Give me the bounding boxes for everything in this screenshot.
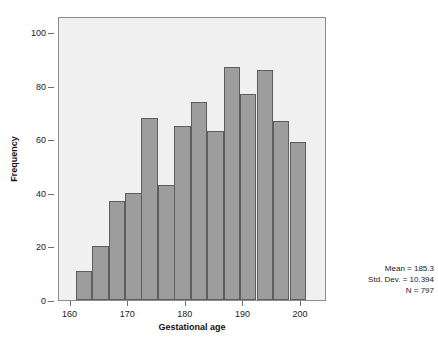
y-tick-mark [48,194,54,195]
histogram-bar [224,67,240,300]
x-tick-mark [242,301,243,306]
y-tick-mark [48,301,54,302]
y-tick-label: 0 [41,296,46,306]
histogram-bar [141,118,157,300]
y-tick-mark [48,140,54,141]
x-axis: 160170180190200 [58,301,326,341]
histogram-bar [92,246,108,300]
y-tick-label: 60 [36,135,46,145]
x-tick-label: 190 [235,309,250,319]
y-tick-label: 20 [36,242,46,252]
y-tick-mark [48,87,54,88]
histogram-bar [109,201,125,300]
histogram-bar [207,131,223,300]
histogram-bar [290,142,306,300]
histogram-bar [174,126,190,300]
y-tick-label: 100 [31,28,46,38]
x-tick-label: 170 [120,309,135,319]
histogram-bar [273,121,289,301]
x-axis-title: Gestational age [58,322,326,332]
histogram-bar [191,102,207,300]
y-tick-label: 40 [36,189,46,199]
histogram-bar [240,94,256,300]
x-tick-label: 200 [293,309,308,319]
stats-annotation: Mean = 185.3 Std. Dev. = 10.394 N = 797 [330,263,434,296]
y-tick-label: 80 [36,82,46,92]
stats-mean: Mean = 185.3 [330,263,434,274]
histogram-bar [257,70,273,300]
histogram-bar [125,193,141,300]
x-tick-label: 160 [62,309,77,319]
histogram-bar [76,271,92,300]
histogram-figure: 020406080100 Frequency 160170180190200 G… [0,0,438,354]
x-tick-label: 180 [177,309,192,319]
histogram-bar [158,185,174,300]
x-tick-mark [127,301,128,306]
plot-area [58,17,326,301]
y-tick-mark [48,247,54,248]
y-tick-mark [48,33,54,34]
x-tick-mark [70,301,71,306]
stats-std-dev: Std. Dev. = 10.394 [330,274,434,285]
stats-n: N = 797 [330,285,434,296]
y-axis-title: Frequency [9,136,19,182]
x-tick-mark [185,301,186,306]
x-tick-mark [300,301,301,306]
bars-layer [59,18,325,300]
